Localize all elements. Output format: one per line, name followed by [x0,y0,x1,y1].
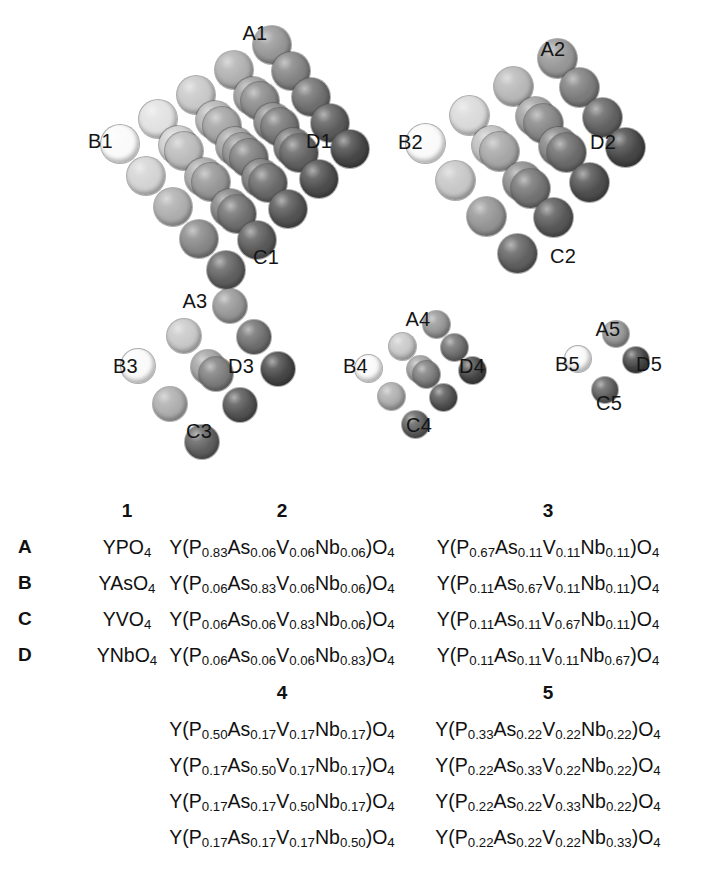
table-row: Y(P0.17As0.17V0.17Nb0.50)O4 Y(P0.22As0.2… [0,826,718,860]
atom-sphere [534,198,573,237]
table-top-cell-a1: YPO4 [103,536,152,560]
atom-sphere [223,388,257,422]
table-bottom-cell-b4: Y(P0.17As0.50V0.17Nb0.17)O4 [169,754,394,778]
cluster-3-vertex-d: D3 [228,355,254,378]
table-top-header-3: 3 [543,500,554,522]
atom-sphere [467,197,506,236]
cluster-1-vertex-c: C1 [253,246,279,269]
atom-sphere [153,387,187,421]
table-top-row-label-a: A [18,536,32,558]
table-top-cell-a2: Y(P0.83As0.06V0.06Nb0.06)O4 [169,536,394,560]
table-row: Y(P0.17As0.17V0.50Nb0.17)O4 Y(P0.22As0.2… [0,790,718,824]
atom-sphere [413,361,440,388]
table-top-cell-d1: YNbO4 [97,644,157,668]
table-top-cell-a3: Y(P0.67As0.11V0.11Nb0.11)O4 [437,536,660,560]
table-bottom-cell-c5: Y(P0.22As0.22V0.33Nb0.22)O4 [435,790,660,814]
table-top-cell-d2: Y(P0.06As0.06V0.06Nb0.83)O4 [169,644,394,668]
cluster-3-vertex-c: C3 [186,420,212,443]
cluster-5-vertex-c: C5 [596,392,622,415]
atom-sphere [498,234,537,273]
cluster-3-vertex-a: A3 [182,290,207,313]
table-row: Y(P0.50As0.17V0.17Nb0.17)O4 Y(P0.33As0.2… [0,718,718,752]
cluster-1 [120,45,350,270]
table-row: B YAsO4 Y(P0.06As0.83V0.06Nb0.06)O4 Y(P0… [0,572,718,606]
table-bottom-cell-a5: Y(P0.33As0.22V0.22Nb0.22)O4 [435,718,660,742]
table-top-cell-b1: YAsO4 [99,572,156,596]
cluster-1-vertex-a: A1 [242,22,267,45]
cluster-2-vertex-d: D2 [590,131,616,154]
atom-sphere [389,333,416,360]
cluster-4-vertex-b: B4 [343,355,368,378]
table-top-header-1: 1 [122,500,133,522]
table-row: A YPO4 Y(P0.83As0.06V0.06Nb0.06)O4 Y(P0.… [0,536,718,570]
table-bottom-cell-a4: Y(P0.50As0.17V0.17Nb0.17)O4 [169,718,394,742]
atom-sphere [180,220,218,258]
cluster-1-vertex-b: B1 [88,130,113,153]
table-top-cell-c2: Y(P0.06As0.06V0.83Nb0.06)O4 [169,608,394,632]
cluster-2-spheres [425,58,625,253]
cluster-4 [368,324,472,424]
cluster-2-vertex-a: A2 [540,38,565,61]
table-row: D YNbO4 Y(P0.06As0.06V0.06Nb0.83)O4 Y(P0… [0,644,718,678]
cluster-4-vertex-a: A4 [405,308,430,331]
table-bottom-cell-b5: Y(P0.22As0.33V0.22Nb0.22)O4 [435,754,660,778]
table-bottom-header-4: 4 [277,682,288,704]
table-top-row-label-b: B [18,572,32,594]
table-top-header-row: 1 2 3 [0,500,718,534]
cluster-5-vertex-b: B5 [555,353,580,376]
table-top-header-2: 2 [277,500,288,522]
atom-sphere [430,384,457,411]
cluster-5 [578,334,636,390]
table-top-cell-b3: Y(P0.11As0.67V0.11Nb0.11)O4 [437,572,660,596]
table-bottom-cell-d5: Y(P0.22As0.22V0.22Nb0.33)O4 [435,826,660,850]
atom-sphere [378,383,405,410]
cluster-1-spheres [120,45,350,270]
cluster-2-vertex-b: B2 [398,131,423,154]
table-top-cell-c1: YVO4 [103,608,152,632]
composition-table-top: 1 2 3 A YPO4 Y(P0.83As0.06V0.06Nb0.06)O4… [0,500,718,670]
table-row: Y(P0.17As0.50V0.17Nb0.17)O4 Y(P0.22As0.3… [0,754,718,788]
table-top-cell-d3: Y(P0.11As0.11V0.11Nb0.67)O4 [437,644,660,668]
cluster-3-vertex-b: B3 [113,355,138,378]
atom-sphere [167,319,201,353]
table-top-cell-b2: Y(P0.06As0.83V0.06Nb0.06)O4 [169,572,394,596]
atom-sphere [269,190,307,228]
atom-sphere [207,251,245,289]
table-bottom-cell-d4: Y(P0.17As0.17V0.17Nb0.50)O4 [169,826,394,850]
table-top-row-label-c: C [18,608,32,630]
atom-sphere [436,161,475,200]
table-bottom-header-row: 4 5 [0,682,718,716]
cluster-2-vertex-c: C2 [550,245,576,268]
atom-sphere [154,188,192,226]
table-bottom-header-5: 5 [543,682,554,704]
composition-table-bottom: 4 5 Y(P0.50As0.17V0.17Nb0.17)O4 Y(P0.33A… [0,682,718,852]
composition-tetrahedra-figure: A1 B1 C1 D1 A2 B2 C2 D2 A3 B3 C3 D3 A4 B… [0,0,718,881]
table-row: C YVO4 Y(P0.06As0.06V0.83Nb0.06)O4 Y(P0.… [0,608,718,642]
atom-sphere [213,289,247,323]
atom-sphere [300,160,338,198]
table-bottom-cell-c4: Y(P0.17As0.17V0.50Nb0.17)O4 [169,790,394,814]
table-top-row-label-d: D [18,644,32,666]
atom-sphere [237,320,271,354]
cluster-5-vertex-d: D5 [636,353,662,376]
cluster-4-spheres [368,324,472,424]
atom-sphere [331,130,369,168]
cluster-5-vertex-a: A5 [595,318,620,341]
cluster-1-vertex-d: D1 [306,130,332,153]
atom-sphere [127,157,165,195]
atom-sphere [570,163,609,202]
atom-sphere [261,352,295,386]
cluster-2 [425,58,625,253]
cluster-4-vertex-c: C4 [406,414,432,437]
table-top-cell-c3: Y(P0.11As0.11V0.67Nb0.11)O4 [437,608,660,632]
cluster-5-spheres [578,334,636,390]
cluster-4-vertex-d: D4 [459,355,485,378]
